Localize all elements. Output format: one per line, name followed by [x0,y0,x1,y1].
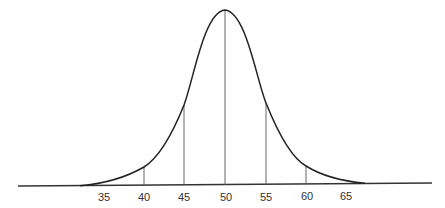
x-tick-label-35: 35 [98,191,110,203]
x-tick-label-50: 50 [220,191,232,203]
x-tick-label-60: 60 [301,190,313,202]
density-curve [80,10,365,186]
x-tick-label-45: 45 [178,191,190,203]
bell-curve-chart: 35 40 45 50 55 60 65 [0,0,445,208]
x-tick-label-65: 65 [340,190,352,202]
x-tick-label-55: 55 [260,191,272,203]
x-tick-label-40: 40 [138,191,150,203]
